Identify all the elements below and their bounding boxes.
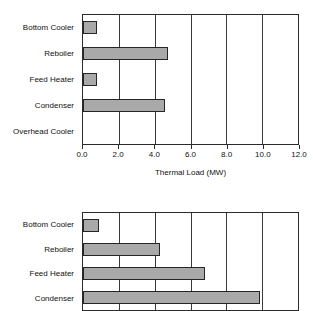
x-tick-label: 8.0 [221,150,232,159]
top-category-label-1: Reboiler [0,40,78,66]
table-row [83,118,298,144]
x-tick-label: 12.0 [291,150,307,159]
bottom-chart-category-labels: Bottom Cooler Reboiler Feed Heater Conde… [0,212,78,311]
y-tick-mark [82,67,83,68]
table-row [83,92,298,118]
top-category-label-4: Overhead Cooler [0,119,78,145]
top-chart-category-labels: Bottom Cooler Reboiler Feed Heater Conde… [0,14,78,145]
y-tick-mark [82,92,83,93]
x-tick-label: 10.0 [255,150,271,159]
top-bar-chart: Bottom Cooler Reboiler Feed Heater Conde… [0,0,313,190]
y-tick-mark [82,237,83,238]
table-row [83,237,298,261]
bar-reboiler [83,243,160,256]
x-tick-mark [263,145,264,149]
bar-feed-heater [83,267,205,280]
table-row [83,262,298,286]
top-category-label-3: Condenser [0,93,78,119]
top-chart-bars [83,15,298,144]
x-tick-mark [227,145,228,149]
y-tick-mark [82,286,83,287]
bottom-bar-chart: Bottom Cooler Reboiler Feed Heater Conde… [0,196,313,311]
y-tick-mark [82,41,83,42]
top-category-label-0: Bottom Cooler [0,14,78,40]
bar-bottom-cooler [83,21,97,34]
table-row [83,286,298,310]
table-row [83,213,298,237]
x-tick-label: 0.0 [76,150,87,159]
table-row [83,41,298,67]
top-chart-plot-area [82,14,299,145]
bar-condenser [83,99,165,112]
bottom-category-label-1: Reboiler [0,237,78,262]
x-tick-label: 4.0 [149,150,160,159]
bar-feed-heater [83,73,97,86]
x-tick-label: 2.0 [113,150,124,159]
bottom-chart-bars [83,213,298,310]
x-axis-title: Thermal Load (MW) [82,168,299,177]
top-category-label-2: Feed Heater [0,66,78,92]
bar-reboiler [83,47,168,60]
bar-condenser [83,291,260,304]
y-tick-mark [82,118,83,119]
x-tick-mark [118,145,119,149]
table-row [83,67,298,93]
x-tick-mark [154,145,155,149]
bottom-category-label-0: Bottom Cooler [0,212,78,237]
table-row [83,15,298,41]
thermal-load-figure: Bottom Cooler Reboiler Feed Heater Conde… [0,0,313,311]
x-tick-label: 6.0 [185,150,196,159]
bottom-chart-plot-area [82,212,299,311]
bottom-category-label-2: Feed Heater [0,262,78,287]
bottom-category-label-3: Condenser [0,286,78,311]
x-tick-mark [82,145,83,149]
x-tick-mark [191,145,192,149]
bar-bottom-cooler [83,219,99,232]
x-tick-mark [299,145,300,149]
y-tick-mark [82,262,83,263]
